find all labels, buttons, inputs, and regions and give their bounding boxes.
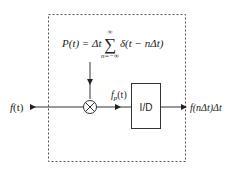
multiplier-icon [84, 101, 97, 114]
svg-text:Δt: Δt [91, 37, 102, 49]
input-arrow-icon [30, 104, 36, 110]
sampling-diagram: I/D f(t) fp(t) f(nΔt)Δt P(t) = Δt ∑ ∞ n=… [0, 0, 236, 171]
svg-text:∞: ∞ [108, 28, 113, 36]
fp-arrow-icon [115, 104, 121, 110]
svg-text:n=−∞: n=−∞ [101, 52, 119, 60]
svg-text:P(t) =: P(t) = [61, 37, 89, 50]
input-label: f(t) [10, 101, 24, 114]
svg-text:δ(t − nΔt): δ(t − nΔt) [120, 37, 164, 50]
fp-label: fp(t) [111, 89, 127, 102]
output-arrow-icon [181, 104, 187, 110]
id-block-label: I/D [140, 102, 153, 113]
pulse-arrow-icon [87, 79, 93, 85]
pulse-train-equation: P(t) = Δt ∑ ∞ n=−∞ δ(t − nΔt) [61, 28, 164, 60]
output-label: f(nΔt)Δt [190, 102, 222, 114]
